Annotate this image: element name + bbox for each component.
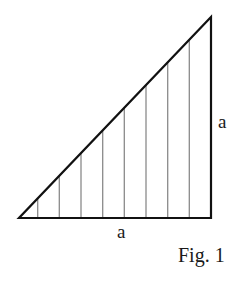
base-label: a <box>117 222 125 241</box>
right-triangle <box>19 17 211 218</box>
figure-caption: Fig. 1 <box>178 245 225 265</box>
height-label: a <box>218 112 226 131</box>
hatch-lines <box>38 40 190 218</box>
